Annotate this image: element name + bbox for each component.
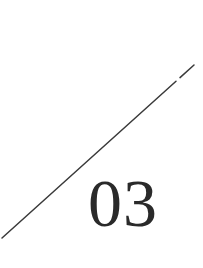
diagonal-line-segment-tip (180, 65, 194, 78)
section-number: 03 (88, 163, 158, 243)
decorative-graphic: 03 (0, 0, 203, 268)
